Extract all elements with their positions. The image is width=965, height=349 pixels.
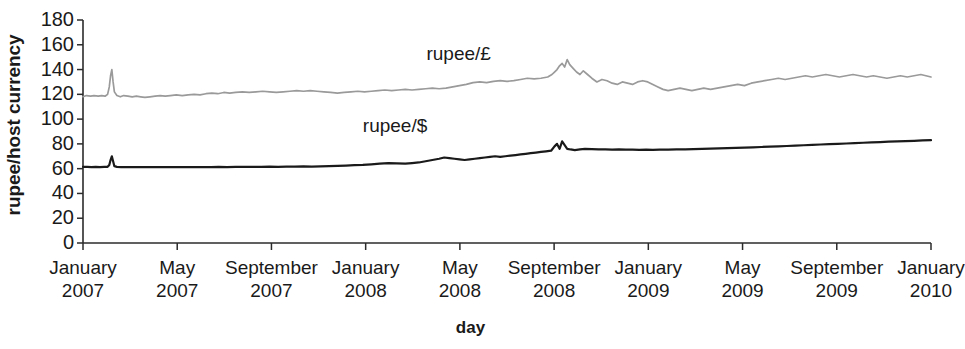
x-tick-month: January xyxy=(615,256,683,279)
x-tick-year: 2009 xyxy=(721,279,763,302)
x-axis-tick-label: January2009 xyxy=(615,256,683,302)
x-axis-tick-label: September2009 xyxy=(790,256,883,302)
series-annotation-label: rupee/$ xyxy=(363,115,427,137)
axes xyxy=(77,20,931,250)
x-axis-tick-label: September2007 xyxy=(225,256,318,302)
x-axis-title: day xyxy=(0,318,941,338)
x-axis-tick-label: January2010 xyxy=(897,256,965,302)
x-tick-month: January xyxy=(897,256,965,279)
x-tick-year: 2009 xyxy=(615,279,683,302)
x-tick-month: May xyxy=(439,256,481,279)
y-axis-tick-label: 100 xyxy=(28,108,74,128)
x-tick-year: 2007 xyxy=(225,279,318,302)
x-axis-tick-label: January2007 xyxy=(49,256,117,302)
y-axis-tick-label: 20 xyxy=(28,207,74,227)
series-line xyxy=(83,60,931,98)
x-axis-tick-labels: January2007May2007September2007January20… xyxy=(0,252,941,314)
x-tick-month: September xyxy=(508,256,601,279)
y-axis-title-text: rupee/host currency xyxy=(3,35,25,216)
x-tick-year: 2007 xyxy=(49,279,117,302)
x-tick-year: 2009 xyxy=(790,279,883,302)
y-axis-tick-labels: 180160140120100806040200 xyxy=(24,0,74,260)
y-axis-tick-label: 80 xyxy=(28,133,74,153)
y-axis-tick-label: 40 xyxy=(28,182,74,202)
y-axis-tick-label: 160 xyxy=(28,34,74,54)
series-annotation-label: rupee/£ xyxy=(426,43,490,65)
x-axis-tick-label: May2008 xyxy=(439,256,481,302)
x-axis-title-text: day xyxy=(456,318,485,337)
x-tick-year: 2007 xyxy=(156,279,198,302)
x-tick-year: 2010 xyxy=(897,279,965,302)
x-tick-month: May xyxy=(721,256,763,279)
x-tick-year: 2008 xyxy=(508,279,601,302)
y-axis-tick-label: 0 xyxy=(28,232,74,252)
x-axis-tick-label: January2008 xyxy=(332,256,400,302)
data-series-group xyxy=(83,60,931,168)
x-tick-year: 2008 xyxy=(332,279,400,302)
x-tick-month: January xyxy=(332,256,400,279)
x-tick-month: September xyxy=(790,256,883,279)
y-axis-tick-label: 60 xyxy=(28,158,74,178)
x-tick-month: January xyxy=(49,256,117,279)
y-axis-tick-label: 180 xyxy=(28,9,74,29)
x-axis-tick-label: May2007 xyxy=(156,256,198,302)
x-tick-year: 2008 xyxy=(439,279,481,302)
y-axis-tick-label: 140 xyxy=(28,59,74,79)
x-axis-tick-label: September2008 xyxy=(508,256,601,302)
y-axis-tick-label: 120 xyxy=(28,83,74,103)
x-axis-tick-label: May2009 xyxy=(721,256,763,302)
x-tick-month: September xyxy=(225,256,318,279)
series-line xyxy=(83,140,931,167)
x-tick-month: May xyxy=(156,256,198,279)
